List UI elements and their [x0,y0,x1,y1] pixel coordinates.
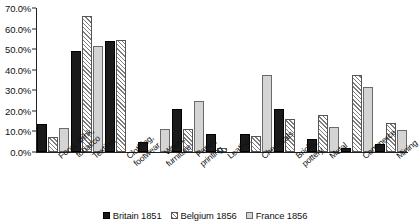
legend-label: Belgium 1856 [181,210,237,221]
legend-swatch-icon [246,212,253,219]
y-tick-label: 70.0% [5,3,36,14]
bar-1 [48,137,58,152]
bar-group [137,8,171,152]
y-tick-label: 10.0% [5,126,36,137]
y-tick-label: 30.0% [5,85,36,96]
legend-swatch-icon [171,212,178,219]
legend-swatch-icon [103,212,110,219]
bar-1 [116,40,126,152]
legend-label: France 1856 [256,210,308,221]
legend-item[interactable]: Belgium 1856 [171,210,237,221]
y-tick-label: 40.0% [5,64,36,75]
y-tick-label: 20.0% [5,105,36,116]
bar-group [171,8,205,152]
legend-item[interactable]: France 1856 [246,210,308,221]
bar-group [205,8,239,152]
bar-1 [352,75,362,152]
chart-legend: Britain 1851Belgium 1856France 1856 [0,210,410,221]
bar-0 [37,124,47,152]
y-tick-label: 0.0% [10,147,36,158]
bar-group [104,8,138,152]
legend-item[interactable]: Britain 1851 [103,210,162,221]
y-tick-label: 60.0% [5,23,36,34]
bar-group [307,8,341,152]
bar-group [36,8,70,152]
bar-2 [262,75,272,152]
bar-group [239,8,273,152]
legend-label: Britain 1851 [113,210,162,221]
bar-group [340,8,374,152]
y-tick-label: 50.0% [5,44,36,55]
x-axis-labels: Food, drink,tobaccoTextilesClothing,foot… [36,154,408,206]
